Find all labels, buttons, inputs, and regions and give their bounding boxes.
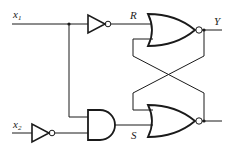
wire-x1-to-and [69,24,88,117]
label-x2: x2 [12,118,22,132]
label-x1: x1 [12,8,21,22]
nor-gate-2-icon [148,105,195,137]
label-s: S [131,129,137,141]
label-y: Y [214,15,222,27]
inverter-2-icon [32,124,49,142]
junction-dot [202,28,205,31]
wire-feedback-nor2-to-nor1 [133,39,204,121]
nor-gate-2-bubble [196,118,202,124]
inverter-1-icon [88,15,105,33]
nor-gate-1-bubble [196,27,202,33]
logic-diagram: x1 x2 R S Y [0,0,234,152]
junction-dot [67,22,70,25]
junction-dot [202,119,205,122]
label-r: R [129,9,137,21]
circuit-canvas: x1 x2 R S Y [0,0,234,152]
and-gate-icon [88,110,115,140]
nor-gate-1-icon [148,14,195,46]
wire-feedback-nor1-to-nor2 [133,30,204,110]
